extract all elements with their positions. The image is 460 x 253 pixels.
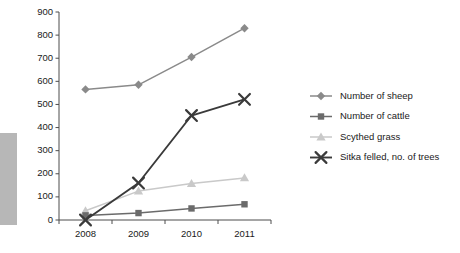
y-axis-tick-label: 700 (37, 52, 53, 63)
legend-item-label[interactable]: Number of cattle (340, 110, 410, 121)
series-0-point (134, 81, 142, 89)
y-axis-tick-label: 100 (37, 190, 53, 201)
line-chart-svg (0, 0, 460, 253)
y-axis-tick-label: 800 (37, 29, 53, 40)
y-axis-tick-label: 500 (37, 98, 53, 109)
y-axis-tick-label: 900 (37, 6, 53, 17)
chart-axes (59, 12, 271, 220)
series-0-point (240, 24, 248, 32)
legend-item-label[interactable]: Sitka felled, no. of trees (340, 151, 439, 162)
series-2-point (240, 173, 249, 181)
square-marker-icon (318, 113, 324, 119)
x-axis-tick-marks (59, 220, 271, 224)
y-axis-tick-label: 600 (37, 75, 53, 86)
series-line-1 (86, 204, 245, 215)
y-axis-tick-marks (56, 12, 60, 220)
legend-item-label[interactable]: Scythed grass (340, 131, 400, 142)
x-axis-tick-label: 2008 (64, 228, 108, 239)
series-1-point (135, 210, 141, 216)
series-1-point (188, 205, 194, 211)
series-line-0 (86, 28, 245, 89)
x-axis-tick-label: 2009 (117, 228, 161, 239)
y-axis-tick-label: 200 (37, 167, 53, 178)
chart-legend (310, 92, 332, 163)
series-0-point (187, 53, 195, 61)
chart-container: 0100200300400500600700800900 20082009201… (0, 0, 460, 253)
x-axis-tick-label: 2011 (223, 228, 267, 239)
chart-series-layer (80, 24, 250, 225)
series-1-point (241, 201, 247, 207)
y-axis-tick-label: 0 (48, 214, 53, 225)
y-axis-tick-label: 400 (37, 121, 53, 132)
diamond-marker-icon (317, 92, 325, 100)
x-axis-tick-label: 2010 (170, 228, 214, 239)
legend-item-label[interactable]: Number of sheep (340, 90, 413, 101)
y-axis-tick-label: 300 (37, 144, 53, 155)
series-0-point (81, 85, 89, 93)
